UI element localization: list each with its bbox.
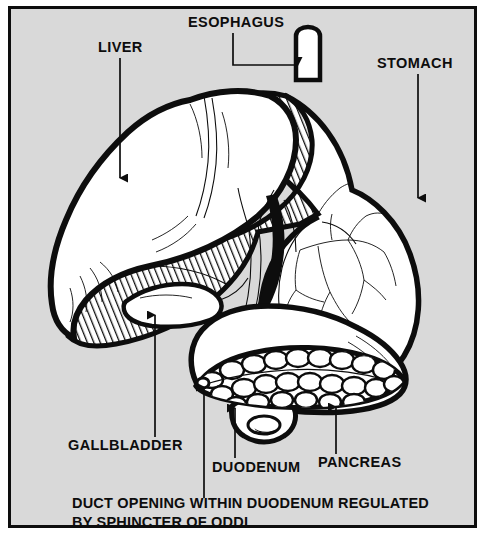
figure-frame-border xyxy=(8,6,477,528)
figure-root: LIVER ESOPHAGUS STOMACH GALLBLADDER DUOD… xyxy=(0,0,485,558)
